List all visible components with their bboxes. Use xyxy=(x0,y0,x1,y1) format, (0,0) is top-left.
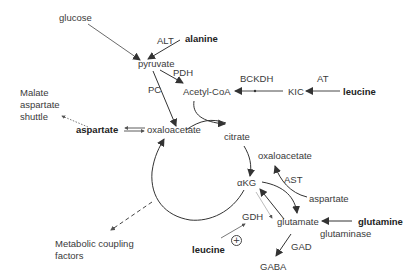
node-leucine-top: leucine xyxy=(343,86,376,97)
node-glutamine: glutamine xyxy=(358,216,403,227)
arrow-pyruvate-oxaloacetate xyxy=(153,71,176,126)
node-oxaloacetate-right: oxaloacetate xyxy=(258,150,312,161)
node-kic: KIC xyxy=(288,86,304,97)
label-metabolic-coupling-2: factors xyxy=(55,250,84,261)
node-citrate: citrate xyxy=(224,131,250,142)
node-glutamate: glutamate xyxy=(277,216,319,227)
node-leucine-bottom: leucine xyxy=(192,244,225,255)
enzyme-gdh: GDH xyxy=(242,211,263,222)
node-alpha-kg: αKG xyxy=(237,177,256,188)
metabolic-pathway-diagram: glucose ALT alanine pyruvate PDH PC Acet… xyxy=(0,0,420,280)
enzyme-alt: ALT xyxy=(157,35,174,46)
node-aspartate-right: aspartate xyxy=(309,193,349,204)
enzyme-at: AT xyxy=(317,73,328,84)
enzyme-ast: AST xyxy=(284,174,302,185)
arrow-glucose-pyruvate xyxy=(88,24,140,60)
node-acetyl-coa: Acetyl-CoA xyxy=(183,86,231,97)
node-aspartate-left: aspartate xyxy=(76,124,118,135)
node-alanine: alanine xyxy=(185,33,218,44)
node-pyruvate: pyruvate xyxy=(138,58,174,69)
arrow-glutamate-gaba xyxy=(276,234,291,256)
enzyme-gad: GAD xyxy=(291,241,312,252)
enzyme-pc: PC xyxy=(148,84,161,95)
tca-cycle-arc xyxy=(152,139,244,220)
node-oxaloacetate-cycle: oxaloacetate xyxy=(147,124,201,135)
enzyme-pdh: PDH xyxy=(173,67,193,78)
activation-plus-icon: + xyxy=(231,235,242,246)
label-malate-aspartate-shuttle-3: shuttle xyxy=(20,111,48,122)
arrow-cycle-metabolic xyxy=(111,202,152,230)
enzyme-bckdh: BCKDH xyxy=(240,73,273,84)
node-gaba: GABA xyxy=(260,261,286,272)
label-malate-aspartate-shuttle-1: Malate xyxy=(20,87,49,98)
label-malate-aspartate-shuttle-2: aspartate xyxy=(20,99,60,110)
label-metabolic-coupling-1: Metabolic coupling xyxy=(55,238,134,249)
enzyme-glutaminase: glutaminase xyxy=(320,228,371,239)
node-glucose: glucose xyxy=(59,12,92,23)
arrow-citrate-akg xyxy=(244,146,251,176)
